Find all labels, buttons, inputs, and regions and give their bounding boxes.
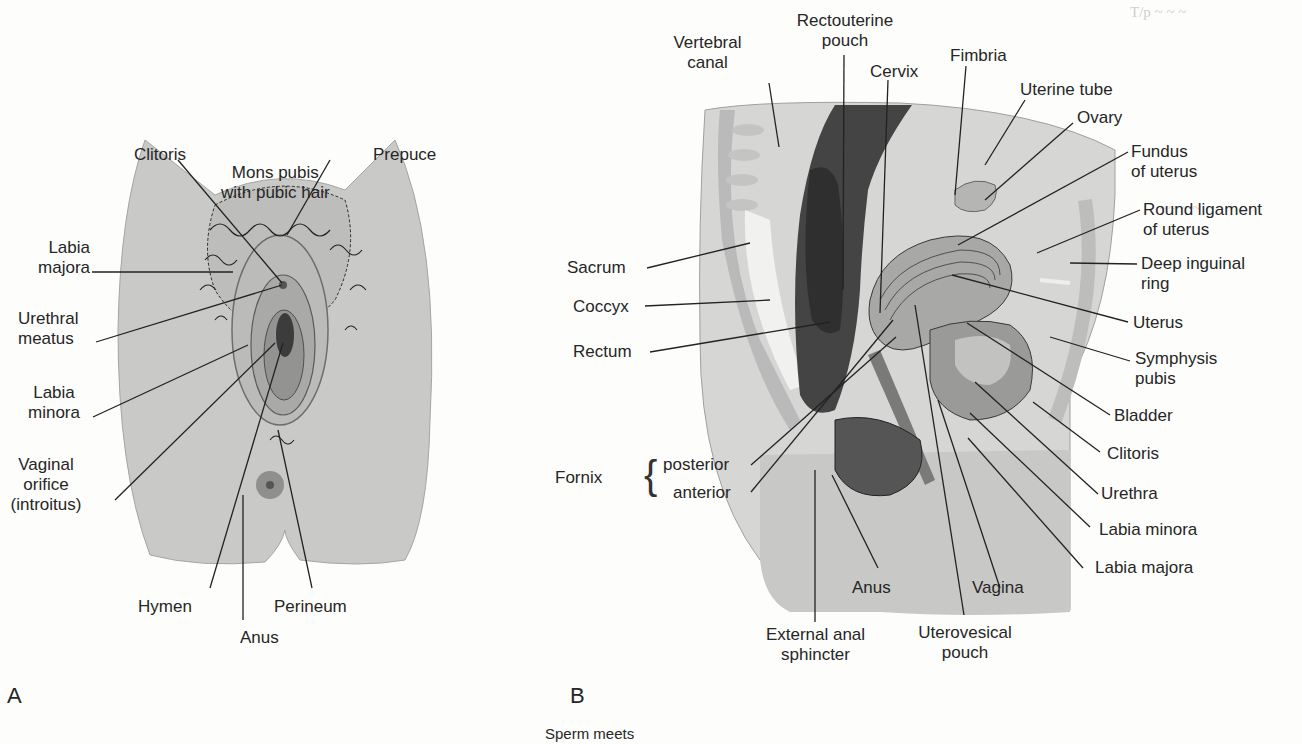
label-b-uterus: Uterus — [1133, 313, 1183, 333]
label-b-symphysis-pubis: Symphysis pubis — [1135, 349, 1217, 389]
label-b-bladder: Bladder — [1114, 406, 1173, 426]
panel-b-letter: B — [570, 683, 585, 709]
label-b-external-anal-sphincter: External anal sphincter — [748, 625, 883, 665]
label-a-hymen: Hymen — [138, 597, 192, 617]
label-b-fundus-of-uterus: Fundus of uterus — [1131, 142, 1197, 182]
label-b-rectum: Rectum — [573, 342, 632, 362]
label-b-labia-minora: Labia minora — [1099, 520, 1197, 540]
label-b-uterovesical-pouch: Uterovesical pouch — [895, 623, 1035, 663]
label-b-coccyx: Coccyx — [573, 297, 629, 317]
label-b-fornix-anterior: anterior — [673, 483, 731, 503]
label-a-urethral-meatus: Urethral meatus — [18, 309, 78, 349]
label-b-deep-inguinal-ring: Deep inguinal ring — [1141, 254, 1245, 294]
label-b-uterine-tube: Uterine tube — [1020, 80, 1113, 100]
label-a-labia-majora: Labia majora — [18, 238, 90, 278]
panel-a-illustration — [92, 140, 432, 620]
panel-b-illustration — [645, 55, 1140, 622]
label-a-mons-pubis: Mons pubis with pubic hair — [221, 163, 330, 203]
label-b-fornix-posterior: posterior — [663, 455, 729, 475]
label-b-vertebral-canal: Vertebral canal — [650, 33, 765, 73]
label-b-fimbria: Fimbria — [950, 46, 1007, 66]
label-b-vagina: Vagina — [972, 578, 1024, 598]
label-a-prepuce: Prepuce — [373, 145, 436, 165]
panel-a-letter: A — [7, 683, 22, 709]
label-b-urethra: Urethra — [1101, 484, 1158, 504]
label-a-perineum: Perineum — [274, 597, 347, 617]
label-b-clitoris: Clitoris — [1107, 444, 1159, 464]
label-b-cervix: Cervix — [870, 62, 918, 82]
label-a-anus: Anus — [240, 628, 279, 648]
label-b-round-ligament: Round ligament of uterus — [1143, 200, 1262, 240]
label-b-fornix: Fornix — [555, 468, 602, 488]
brace-icon: { — [644, 455, 657, 495]
label-b-ovary: Ovary — [1077, 108, 1122, 128]
label-a-clitoris: Clitoris — [134, 145, 186, 165]
footer-text-fragment: Sperm meets — [545, 724, 634, 744]
label-a-labia-minora: Labia minora — [18, 383, 90, 423]
label-b-labia-majora: Labia majora — [1095, 558, 1193, 578]
label-b-sacrum: Sacrum — [567, 258, 626, 278]
label-b-rectouterine-pouch: Rectouterine pouch — [775, 11, 915, 51]
label-b-anus: Anus — [852, 578, 891, 598]
label-a-vaginal-orifice: Vaginal orifice (introitus) — [0, 455, 92, 515]
